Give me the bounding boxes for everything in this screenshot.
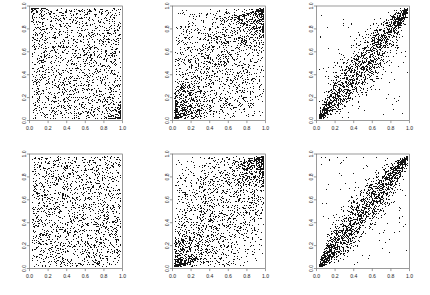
x-tick-label: 0.4: [350, 125, 357, 131]
scatter-panel-6: 0.00.20.40.60.81.00.00.20.40.60.81.0: [287, 148, 430, 295]
y-tick-label: 0.4: [165, 71, 171, 78]
x-tick-label: 0.6: [225, 272, 232, 278]
y-tick-label: 0.6: [165, 196, 171, 203]
scatter-plot-4: 0.00.20.40.60.81.00.00.20.40.60.81.0: [0, 148, 143, 295]
y-tick-label: 0.2: [308, 241, 314, 248]
x-tick-label: 0.8: [387, 272, 394, 278]
y-tick-label: 0.4: [21, 218, 27, 225]
x-tick-label: 1.0: [119, 272, 126, 278]
y-tick-label: 0.0: [165, 117, 171, 124]
scatter-panel-2: 0.00.20.40.60.81.00.00.20.40.60.81.0: [143, 0, 286, 148]
scatter-panel-3: 0.00.20.40.60.81.00.00.20.40.60.81.0: [287, 0, 430, 148]
x-tick-label: 0.2: [188, 125, 195, 131]
x-tick-label: 0.6: [368, 272, 375, 278]
y-tick-label: 0.4: [21, 71, 27, 78]
y-tick-label: 0.8: [165, 25, 171, 32]
x-tick-label: 0.0: [26, 272, 33, 278]
y-tick-label: 0.8: [308, 173, 314, 180]
y-tick-label: 0.4: [308, 71, 314, 78]
y-tick-label: 0.6: [308, 196, 314, 203]
scatter-plot-5: 0.00.20.40.60.81.00.00.20.40.60.81.0: [143, 148, 286, 295]
y-tick-label: 0.2: [165, 241, 171, 248]
scatterplot-matrix: 0.00.20.40.60.81.00.00.20.40.60.81.00.00…: [0, 0, 430, 295]
y-tick-label: 1.0: [308, 150, 314, 157]
y-tick-label: 0.0: [21, 264, 27, 271]
x-tick-label: 0.4: [63, 125, 70, 131]
x-tick-label: 0.0: [26, 125, 33, 131]
scatter-plot-2: 0.00.20.40.60.81.00.00.20.40.60.81.0: [143, 0, 286, 148]
x-tick-label: 0.8: [100, 272, 107, 278]
x-tick-label: 0.6: [82, 272, 89, 278]
x-tick-label: 0.6: [82, 125, 89, 131]
scatter-panel-5: 0.00.20.40.60.81.00.00.20.40.60.81.0: [143, 148, 286, 295]
y-tick-label: 0.6: [21, 48, 27, 55]
x-tick-label: 0.0: [169, 272, 176, 278]
x-tick-label: 1.0: [262, 125, 269, 131]
x-tick-label: 1.0: [406, 272, 413, 278]
y-tick-label: 0.6: [21, 196, 27, 203]
x-tick-label: 0.8: [244, 272, 251, 278]
y-tick-label: 0.0: [165, 264, 171, 271]
y-tick-label: 0.8: [21, 173, 27, 180]
y-tick-label: 0.0: [21, 117, 27, 124]
x-tick-label: 0.0: [313, 125, 320, 131]
y-tick-label: 0.6: [308, 48, 314, 55]
y-tick-label: 0.2: [21, 241, 27, 248]
y-tick-label: 1.0: [21, 150, 27, 157]
x-tick-label: 0.2: [331, 125, 338, 131]
y-tick-label: 1.0: [165, 2, 171, 9]
scatter-panel-4: 0.00.20.40.60.81.00.00.20.40.60.81.0: [0, 148, 143, 295]
scatter-panel-1: 0.00.20.40.60.81.00.00.20.40.60.81.0: [0, 0, 143, 148]
y-tick-label: 0.2: [21, 94, 27, 101]
y-tick-label: 0.2: [308, 94, 314, 101]
x-tick-label: 0.4: [206, 125, 213, 131]
y-tick-label: 0.4: [165, 218, 171, 225]
scatter-plot-3: 0.00.20.40.60.81.00.00.20.40.60.81.0: [287, 0, 430, 148]
y-tick-label: 0.6: [165, 48, 171, 55]
x-tick-label: 0.8: [244, 125, 251, 131]
x-tick-label: 1.0: [262, 272, 269, 278]
scatter-plot-1: 0.00.20.40.60.81.00.00.20.40.60.81.0: [0, 0, 143, 148]
y-tick-label: 0.0: [308, 117, 314, 124]
x-tick-label: 0.0: [313, 272, 320, 278]
x-tick-label: 1.0: [119, 125, 126, 131]
y-tick-label: 0.0: [308, 264, 314, 271]
x-tick-label: 1.0: [406, 125, 413, 131]
x-tick-label: 0.2: [331, 272, 338, 278]
y-tick-label: 1.0: [21, 2, 27, 9]
scatter-plot-6: 0.00.20.40.60.81.00.00.20.40.60.81.0: [287, 148, 430, 295]
x-tick-label: 0.0: [169, 125, 176, 131]
y-tick-label: 1.0: [308, 2, 314, 9]
x-tick-label: 0.2: [45, 272, 52, 278]
x-tick-label: 0.8: [387, 125, 394, 131]
x-tick-label: 0.4: [206, 272, 213, 278]
y-tick-label: 0.8: [21, 25, 27, 32]
y-tick-label: 0.2: [165, 94, 171, 101]
x-tick-label: 0.4: [350, 272, 357, 278]
y-tick-label: 0.8: [308, 25, 314, 32]
x-tick-label: 0.8: [100, 125, 107, 131]
x-tick-label: 0.2: [188, 272, 195, 278]
x-tick-label: 0.6: [225, 125, 232, 131]
y-tick-label: 1.0: [165, 150, 171, 157]
x-tick-label: 0.6: [368, 125, 375, 131]
y-tick-label: 0.8: [165, 173, 171, 180]
y-tick-label: 0.4: [308, 218, 314, 225]
x-tick-label: 0.2: [45, 125, 52, 131]
x-tick-label: 0.4: [63, 272, 70, 278]
